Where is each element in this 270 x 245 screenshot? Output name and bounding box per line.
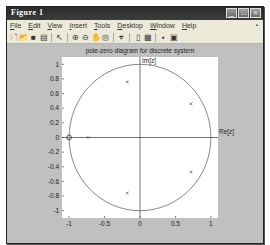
y-tick-label: 0 xyxy=(55,134,59,141)
y-tick-label: 0.2 xyxy=(50,119,59,126)
y-tick-label: 1 xyxy=(55,61,59,68)
pole-zero-chart: pole-zero diagram for discrete system 10… xyxy=(0,0,270,245)
x-tick-label: -0.5 xyxy=(99,220,111,227)
y-tick-label: -0.2 xyxy=(48,148,60,155)
x-tick-label: 0.5 xyxy=(171,220,180,227)
x-tick-label: 0 xyxy=(138,220,142,227)
y-axis-label: Im[z] xyxy=(142,57,156,65)
y-tick-label: 0.8 xyxy=(50,75,59,82)
y-tick-label: -0.8 xyxy=(48,192,60,199)
y-tick-label: 0.6 xyxy=(50,90,59,97)
y-tick-label: -0.4 xyxy=(48,163,60,170)
x-axis-label: Re[z] xyxy=(219,128,234,136)
chart-title: pole-zero diagram for discrete system xyxy=(86,47,195,55)
x-tick-label: -1 xyxy=(66,220,72,227)
x-tick-label: 1 xyxy=(209,220,213,227)
y-tick-label: -1 xyxy=(53,207,59,214)
y-tick-label: -0.6 xyxy=(48,178,60,185)
y-tick-label: 0.4 xyxy=(50,104,59,111)
